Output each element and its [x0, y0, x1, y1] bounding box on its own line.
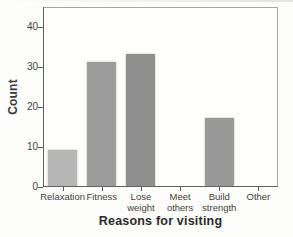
x-axis-line	[43, 186, 278, 187]
page-edge-shadow	[0, 0, 293, 2]
y-axis-tick-10	[38, 147, 43, 148]
y-axis-tick-20	[38, 107, 43, 108]
y-axis-tick-40	[38, 27, 43, 28]
bar-lose-weight	[126, 54, 155, 186]
y-axis-tick-label-20: 20	[6, 101, 38, 113]
bar-build-strength	[205, 118, 234, 186]
x-axis-tick-label-other: Other	[222, 192, 293, 203]
y-axis-tick-0	[38, 187, 43, 188]
plot-area	[43, 7, 278, 187]
bar-fitness	[87, 62, 116, 186]
y-axis-tick-label-40: 40	[6, 21, 38, 33]
x-axis-title: Reasons for visiting	[43, 214, 278, 228]
y-axis-tick-30	[38, 67, 43, 68]
bar-chart-figure: Count Reasons for visiting 010203040Rela…	[0, 0, 293, 237]
y-axis-tick-label-10: 10	[6, 141, 38, 153]
y-axis-tick-label-30: 30	[6, 61, 38, 73]
y-axis-line	[43, 7, 44, 187]
bar-relaxation	[48, 150, 77, 186]
